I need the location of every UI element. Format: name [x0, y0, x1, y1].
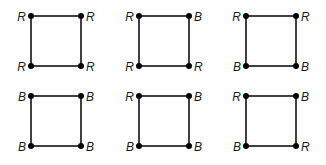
- square-5: R B B B: [125, 90, 202, 154]
- vertex-bottom-right: [293, 143, 299, 149]
- square-3: R R B B: [232, 10, 310, 74]
- label-bottom-left: R: [17, 60, 26, 74]
- vertex-bottom-left: [136, 143, 142, 149]
- square-edges: [31, 16, 81, 66]
- vertex-top-right: [78, 13, 84, 19]
- label-top-right: B: [194, 10, 202, 24]
- label-top-left: R: [125, 10, 134, 24]
- vertex-top-left: [28, 93, 34, 99]
- label-bottom-right: R: [86, 60, 95, 74]
- label-top-left: R: [125, 90, 134, 104]
- square-6: R B B R: [232, 90, 310, 154]
- label-top-left: B: [18, 90, 26, 104]
- square-colorings-diagram: R R R R R B R R R R B B B B B B: [0, 0, 326, 165]
- vertex-top-right: [186, 93, 192, 99]
- vertex-top-left: [136, 93, 142, 99]
- vertex-top-right: [78, 93, 84, 99]
- square-edges: [246, 16, 296, 66]
- label-bottom-left: B: [126, 140, 134, 154]
- square-edges: [139, 16, 189, 66]
- label-bottom-left: R: [125, 60, 134, 74]
- vertex-top-left: [136, 13, 142, 19]
- vertex-top-left: [28, 13, 34, 19]
- vertex-bottom-left: [243, 143, 249, 149]
- square-4: B B B B: [18, 90, 94, 154]
- label-top-right: B: [194, 90, 202, 104]
- label-top-left: R: [232, 10, 241, 24]
- label-bottom-right: B: [301, 60, 309, 74]
- vertex-bottom-right: [78, 143, 84, 149]
- label-bottom-right: R: [194, 60, 203, 74]
- label-top-right: B: [86, 90, 94, 104]
- vertex-top-right: [293, 93, 299, 99]
- vertex-bottom-right: [293, 63, 299, 69]
- label-bottom-left: B: [18, 140, 26, 154]
- vertex-top-left: [243, 13, 249, 19]
- vertex-top-left: [243, 93, 249, 99]
- vertex-top-right: [186, 13, 192, 19]
- label-bottom-right: B: [86, 140, 94, 154]
- square-edges: [139, 96, 189, 146]
- label-bottom-right: B: [194, 140, 202, 154]
- vertex-bottom-left: [243, 63, 249, 69]
- label-bottom-right: R: [301, 140, 310, 154]
- label-bottom-left: B: [233, 60, 241, 74]
- vertex-bottom-left: [28, 143, 34, 149]
- square-1: R R R R: [17, 10, 95, 74]
- square-2: R B R R: [125, 10, 203, 74]
- vertex-bottom-left: [136, 63, 142, 69]
- square-edges: [246, 96, 296, 146]
- label-top-right: R: [301, 10, 310, 24]
- label-top-right: B: [301, 90, 309, 104]
- label-top-left: R: [17, 10, 26, 24]
- label-top-right: R: [86, 10, 95, 24]
- vertex-bottom-right: [186, 143, 192, 149]
- label-bottom-left: B: [233, 140, 241, 154]
- square-edges: [31, 96, 81, 146]
- vertex-bottom-left: [28, 63, 34, 69]
- label-top-left: R: [232, 90, 241, 104]
- vertex-bottom-right: [186, 63, 192, 69]
- vertex-top-right: [293, 13, 299, 19]
- vertex-bottom-right: [78, 63, 84, 69]
